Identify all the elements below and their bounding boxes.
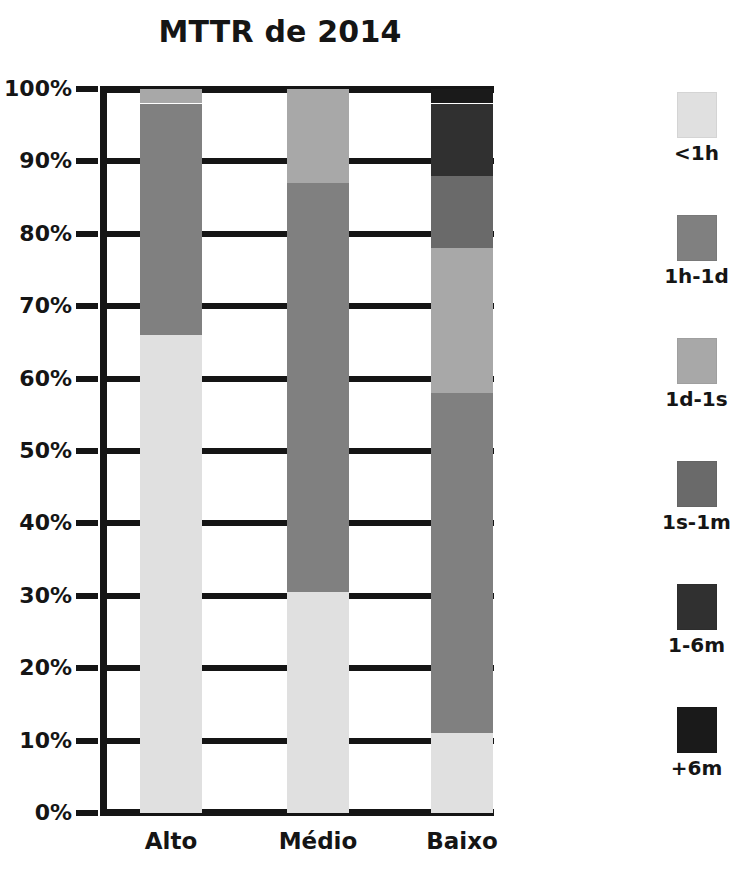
plot-area xyxy=(100,86,494,816)
legend-color-swatch xyxy=(677,584,717,630)
y-axis-tick-label: 80% xyxy=(0,223,72,245)
bar-stack xyxy=(140,89,202,813)
legend-color-swatch xyxy=(677,338,717,384)
y-axis-tick-label: 10% xyxy=(0,730,72,752)
y-axis-tick-mark xyxy=(76,158,98,164)
x-axis-category-label: Médio xyxy=(238,828,398,854)
legend-label: <1h xyxy=(645,143,748,163)
y-axis-tick-mark xyxy=(76,448,98,454)
legend-color-swatch xyxy=(677,461,717,507)
bar-segment xyxy=(287,183,349,592)
y-axis-tick-mark xyxy=(76,303,98,309)
y-axis-tick-label: 20% xyxy=(0,657,72,679)
legend-item[interactable]: 1s-1m xyxy=(645,461,748,532)
legend-item[interactable]: 1d-1s xyxy=(645,338,748,409)
legend-color-swatch xyxy=(677,215,717,261)
y-axis-tick-label: 70% xyxy=(0,295,72,317)
y-axis-tick-mark xyxy=(76,376,98,382)
bar-segment xyxy=(140,104,202,336)
legend-item[interactable]: 1-6m xyxy=(645,584,748,655)
legend-label: 1s-1m xyxy=(645,512,748,532)
legend-label: 1h-1d xyxy=(645,266,748,286)
bar-segment xyxy=(431,733,493,813)
legend-label: +6m xyxy=(645,758,748,778)
y-axis-tick-label: 90% xyxy=(0,150,72,172)
bar-segment xyxy=(431,248,493,393)
bar-segment xyxy=(287,592,349,813)
legend-item[interactable]: <1h xyxy=(645,92,748,163)
bar-segment xyxy=(431,176,493,248)
legend-color-swatch xyxy=(677,92,717,138)
bar-segment xyxy=(431,89,493,103)
bar-segment xyxy=(140,89,202,103)
y-axis-tick-label: 30% xyxy=(0,585,72,607)
legend-item[interactable]: +6m xyxy=(645,707,748,778)
bar-stack xyxy=(287,89,349,813)
y-axis-tick-mark xyxy=(76,810,98,816)
bar-segment xyxy=(431,104,493,176)
y-axis-tick-mark xyxy=(76,593,98,599)
y-axis-tick-mark xyxy=(76,665,98,671)
chart-legend: <1h1h-1d1d-1s1s-1m1-6m+6m xyxy=(645,92,748,832)
y-axis-tick-mark xyxy=(76,520,98,526)
y-axis-tick-label: 40% xyxy=(0,512,72,534)
bar-segment xyxy=(287,89,349,183)
x-axis-category-label: Baixo xyxy=(382,828,542,854)
x-axis-category-label: Alto xyxy=(91,828,251,854)
chart-title: MTTR de 2014 xyxy=(0,14,560,49)
legend-color-swatch xyxy=(677,707,717,753)
y-axis-tick-label: 100% xyxy=(0,78,72,100)
legend-item[interactable]: 1h-1d xyxy=(645,215,748,286)
legend-label: 1-6m xyxy=(645,635,748,655)
bar-segment xyxy=(431,393,493,733)
bar-segment xyxy=(140,335,202,813)
y-axis-tick-label: 60% xyxy=(0,368,72,390)
y-axis-tick-label: 0% xyxy=(0,802,72,824)
y-axis-tick-mark xyxy=(76,231,98,237)
chart-root: MTTR de 2014 100%90%80%70%60%50%40%30%20… xyxy=(0,0,748,875)
y-axis-tick-mark xyxy=(76,86,98,92)
bar-stack xyxy=(431,89,493,813)
y-axis-tick-mark xyxy=(76,738,98,744)
y-axis-tick-label: 50% xyxy=(0,440,72,462)
legend-label: 1d-1s xyxy=(645,389,748,409)
